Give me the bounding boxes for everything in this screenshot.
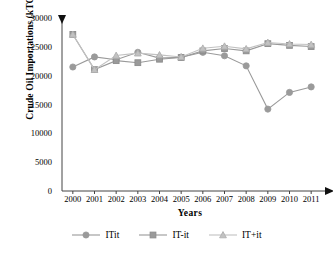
series-layer [69, 31, 314, 112]
legend-marker-shape [150, 232, 156, 238]
data-point-marker [135, 60, 141, 66]
legend-marker-shape [83, 232, 89, 238]
legend-entry-IT+it[interactable]: IT+it [208, 229, 262, 241]
data-point-marker [308, 84, 314, 90]
chart-figure: Crude Oil Importations (kTOE) 0500010000… [0, 0, 333, 255]
legend-label: ITit [105, 230, 119, 240]
legend-marker-square-icon [138, 229, 168, 241]
triangle-right-marker-icon [325, 187, 333, 195]
data-point-marker [286, 89, 292, 95]
data-point-marker [265, 106, 271, 112]
legend-label: IT+it [242, 230, 262, 240]
data-point-marker [70, 64, 76, 70]
data-point-marker [221, 53, 227, 59]
legend-marker-triangle-icon [208, 229, 238, 241]
chart-legend: ITitIT-itIT+it [0, 229, 333, 241]
legend-entry-IT-it[interactable]: IT-it [138, 229, 189, 241]
series-IT+it [69, 31, 314, 72]
plot-area [0, 0, 333, 255]
data-point-marker [243, 63, 249, 69]
legend-label: IT-it [172, 230, 189, 240]
data-point-marker [91, 54, 97, 60]
legend-entry-ITit[interactable]: ITit [71, 229, 119, 241]
series-ITit [70, 49, 315, 112]
triangle-up-marker-icon [58, 15, 66, 24]
legend-marker-circle-icon [71, 229, 101, 241]
axis-layer [58, 15, 333, 195]
